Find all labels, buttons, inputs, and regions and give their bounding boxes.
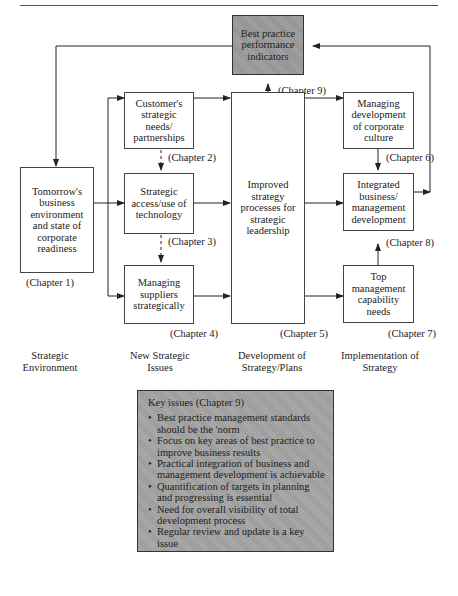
box-text: Customer's strategic needs/ partnerships bbox=[127, 98, 191, 144]
box-text: Tomorrow's business environment and stat… bbox=[23, 186, 91, 255]
box-corporate-culture: Managing development of corporate cultur… bbox=[343, 92, 414, 149]
key-issue-item: Best practice management standards shoul… bbox=[148, 412, 325, 435]
column-label-new-strategic-issues: New Strategic Issues bbox=[118, 350, 202, 374]
box-text: Improved strategy processes for strategi… bbox=[234, 179, 302, 237]
box-text: Top management capability needs bbox=[346, 271, 411, 317]
box-improved-strategy-processes: Improved strategy processes for strategi… bbox=[231, 92, 305, 324]
box-managing-suppliers: Managing suppliers strategically bbox=[124, 265, 194, 324]
column-label-development-of-strategy: Development of Strategy/Plans bbox=[220, 350, 324, 374]
column-label-strategic-environment: Strategic Environment bbox=[8, 350, 92, 374]
box-text: Managing development of corporate cultur… bbox=[346, 98, 411, 144]
key-issue-item: Quantification of targets in planning an… bbox=[148, 481, 325, 504]
chapter-label-7: (Chapter 7) bbox=[388, 328, 436, 340]
box-business-environment: Tomorrow's business environment and stat… bbox=[20, 167, 94, 273]
box-best-practice-indicators: Best practice performance indicators bbox=[232, 15, 304, 75]
box-customer-needs: Customer's strategic needs/ partnerships bbox=[124, 92, 194, 149]
chapter-label-4: (Chapter 4) bbox=[170, 328, 218, 340]
column-label-implementation: Implementation of Strategy bbox=[334, 350, 426, 374]
chapter-label-2: (Chapter 2) bbox=[168, 152, 216, 164]
key-issues-title: Key issues (Chapter 9) bbox=[148, 397, 325, 408]
box-text: Managing suppliers strategically bbox=[127, 277, 191, 312]
box-technology: Strategic access/use of technology bbox=[124, 173, 194, 234]
box-top-management: Top management capability needs bbox=[343, 265, 414, 323]
box-integrated-development: Integrated business/ management developm… bbox=[343, 173, 414, 231]
figure-caption-clipped bbox=[20, 588, 450, 596]
box-text: Strategic access/use of technology bbox=[127, 186, 191, 221]
key-issue-item: Focus on key areas of best practice to i… bbox=[148, 435, 325, 458]
key-issues-box: Key issues (Chapter 9) Best practice man… bbox=[137, 390, 334, 552]
chapter-label-6: (Chapter 6) bbox=[386, 152, 434, 164]
box-text: Integrated business/ management developm… bbox=[346, 179, 411, 225]
chapter-label-3: (Chapter 3) bbox=[168, 236, 216, 248]
key-issue-item: Practical integration of business and ma… bbox=[148, 458, 325, 481]
key-issues-list: Best practice management standards shoul… bbox=[148, 412, 325, 549]
box-text: Best practice performance indicators bbox=[235, 28, 301, 63]
key-issue-item: Need for overall visibility of total dev… bbox=[148, 504, 325, 527]
chapter-label-8: (Chapter 8) bbox=[386, 237, 434, 249]
key-issue-item: Regular review and update is a key issue bbox=[148, 526, 325, 549]
chapter-label-5: (Chapter 5) bbox=[280, 328, 328, 340]
chapter-label-1: (Chapter 1) bbox=[26, 277, 74, 289]
